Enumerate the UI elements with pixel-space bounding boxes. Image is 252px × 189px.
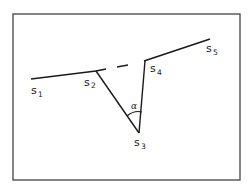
diagram-figure: α s 1 s 2 s 3 s 4 s 5 xyxy=(0,0,252,189)
edge-s4-s5 xyxy=(144,39,210,61)
edge-s2-s4-dash-1 xyxy=(96,69,106,71)
svg-text:5: 5 xyxy=(213,48,218,57)
label-s2: s 2 xyxy=(84,76,96,90)
diagram-canvas: α s 1 s 2 s 3 s 4 s 5 xyxy=(0,0,252,189)
angle-arc xyxy=(127,112,142,117)
svg-text:2: 2 xyxy=(91,81,96,90)
edge-s2-s4-dash-2 xyxy=(117,65,128,67)
svg-text:3: 3 xyxy=(141,142,146,151)
svg-text:s: s xyxy=(134,136,140,149)
edge-s3-s4 xyxy=(139,61,145,133)
svg-text:s: s xyxy=(31,84,37,97)
diagram-frame xyxy=(13,14,240,180)
label-s1: s 1 xyxy=(31,84,43,99)
svg-text:1: 1 xyxy=(38,90,43,99)
svg-text:s: s xyxy=(206,42,212,55)
svg-text:4: 4 xyxy=(157,68,162,77)
svg-text:s: s xyxy=(150,62,156,75)
label-s4: s 4 xyxy=(150,62,162,77)
angle-label: α xyxy=(131,101,137,111)
label-s5: s 5 xyxy=(206,42,218,57)
svg-text:s: s xyxy=(84,76,90,89)
label-s3: s 3 xyxy=(134,136,146,151)
